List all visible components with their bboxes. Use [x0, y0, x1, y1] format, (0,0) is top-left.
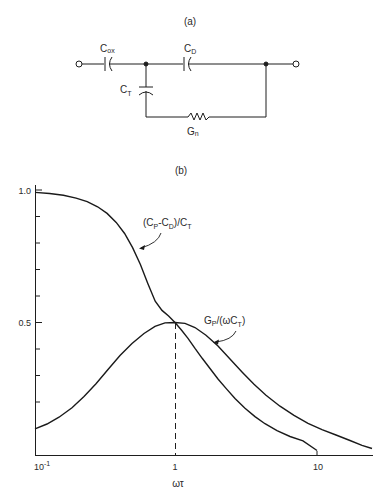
series-gp-pointer-icon: [216, 331, 236, 342]
resistor-gn-icon: [188, 113, 209, 120]
y-ticks: [35, 190, 42, 402]
output-terminal: [293, 61, 299, 67]
series-cp-cd-curve: [35, 192, 317, 450]
series-cp-cd-label: (CP-CD)/CT: [143, 217, 192, 230]
label-cd: CD: [184, 43, 196, 55]
series-gp-label: GP/(ωCT): [204, 315, 245, 328]
panel-a-label: (a): [184, 16, 196, 27]
x-tick-label-1: 1: [172, 462, 177, 472]
label-gn: Gn: [187, 126, 199, 137]
circuit-diagram: [76, 57, 299, 120]
y-tick-label-0.5: 0.5: [18, 318, 31, 328]
figure: (a) Cox: [0, 0, 386, 498]
x-axis-title: ωτ: [172, 478, 184, 489]
x-tick-label-0.1: 10-1: [34, 460, 50, 472]
label-ct: CT: [120, 84, 132, 97]
label-cox: Cox: [100, 43, 115, 54]
input-terminal: [76, 61, 82, 67]
x-tick-label-10: 10: [313, 462, 323, 472]
series-gp-curve: [35, 323, 372, 449]
arrowhead-icon: [139, 245, 145, 250]
y-tick-label-1: 1.0: [18, 186, 31, 196]
panel-b-label: (b): [175, 165, 187, 176]
